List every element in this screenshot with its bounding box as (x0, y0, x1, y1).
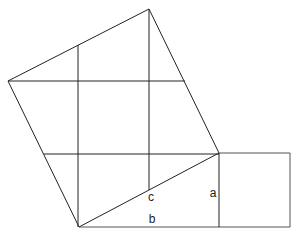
hypotenuse-square (8, 9, 219, 227)
label-a: a (210, 186, 217, 200)
leg-a-square (79, 153, 290, 227)
pythagorean-diagram: a b c (0, 0, 296, 231)
label-b: b (149, 212, 156, 226)
label-c: c (148, 190, 154, 204)
